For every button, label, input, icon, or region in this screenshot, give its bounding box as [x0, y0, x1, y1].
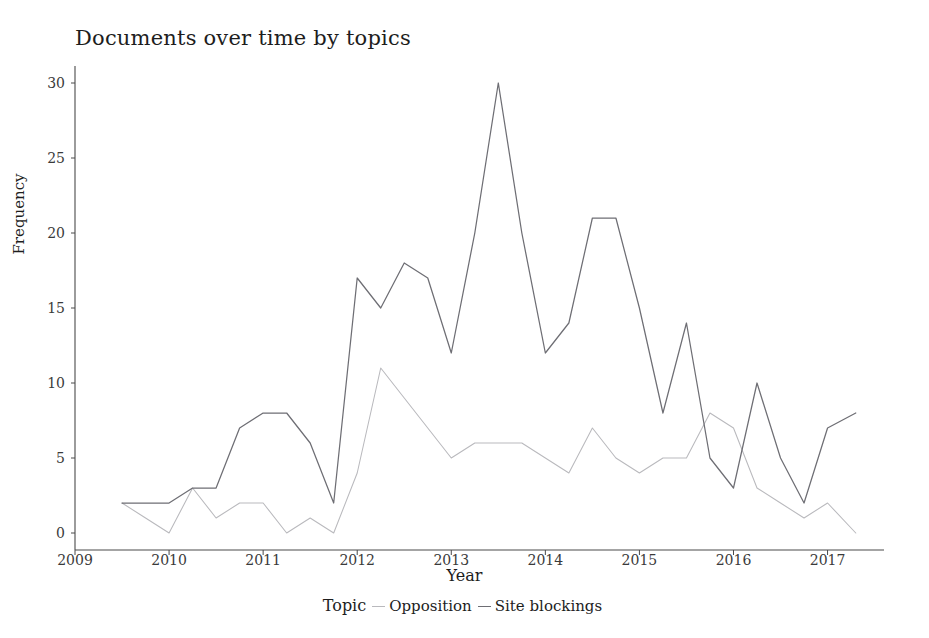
series-line: [122, 83, 856, 503]
y-tick-label: 25: [35, 150, 65, 166]
chart-container: Documents over time by topics Frequency …: [0, 0, 929, 638]
y-axis-ticks: [71, 83, 75, 533]
y-tick-label: 10: [35, 375, 65, 391]
data-series-group: [122, 83, 856, 533]
legend-title: Topic: [323, 596, 366, 615]
y-tick-label: 20: [35, 225, 65, 241]
legend-item-label: Opposition: [389, 597, 472, 615]
legend-item-label: Site blockings: [495, 597, 602, 615]
legend-line-icon: [478, 606, 491, 607]
legend-item[interactable]: Opposition: [372, 597, 472, 615]
legend-line-icon: [372, 606, 385, 607]
y-tick-label: 0: [35, 525, 65, 541]
x-axis-label: Year: [0, 566, 929, 585]
legend-item[interactable]: Site blockings: [478, 597, 602, 615]
y-tick-label: 5: [35, 450, 65, 466]
y-tick-label: 15: [35, 300, 65, 316]
plot-area: [0, 0, 929, 638]
series-line: [122, 368, 856, 533]
legend: TopicOppositionSite blockings: [0, 596, 929, 615]
y-tick-label: 30: [35, 75, 65, 91]
